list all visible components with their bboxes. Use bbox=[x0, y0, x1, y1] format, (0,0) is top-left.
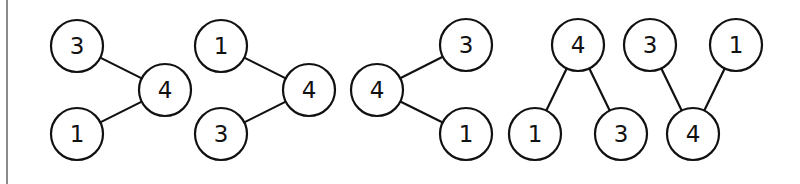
node-4: 4 bbox=[552, 19, 604, 71]
node-label: 1 bbox=[459, 121, 474, 147]
node-4: 4 bbox=[667, 108, 719, 160]
node-label: 4 bbox=[370, 77, 385, 103]
tree-diagrams: 341143431413314 bbox=[0, 0, 800, 184]
graph-1: 341 bbox=[51, 20, 191, 160]
node-1: 1 bbox=[710, 19, 762, 71]
node-4: 4 bbox=[283, 64, 335, 116]
edge-line bbox=[400, 102, 442, 123]
node-label: 1 bbox=[528, 121, 543, 147]
edge-line bbox=[100, 58, 141, 79]
edge-line bbox=[100, 102, 141, 123]
node-label: 4 bbox=[302, 77, 317, 103]
node-label: 1 bbox=[729, 32, 744, 58]
node-4: 4 bbox=[351, 64, 403, 116]
node-1: 1 bbox=[51, 108, 103, 160]
edge-line bbox=[589, 68, 609, 110]
node-3: 3 bbox=[595, 108, 647, 160]
node-label: 1 bbox=[214, 33, 229, 59]
edge-line bbox=[546, 68, 566, 110]
node-3: 3 bbox=[624, 19, 676, 71]
node-3: 3 bbox=[51, 20, 103, 72]
node-label: 3 bbox=[643, 32, 658, 58]
node-label: 3 bbox=[459, 32, 474, 58]
node-label: 4 bbox=[686, 121, 701, 147]
graph-3: 431 bbox=[351, 19, 492, 160]
node-label: 1 bbox=[70, 121, 85, 147]
edge-line bbox=[244, 102, 285, 123]
node-3: 3 bbox=[195, 108, 247, 160]
node-label: 3 bbox=[214, 121, 229, 147]
node-label: 4 bbox=[158, 77, 173, 103]
node-label: 3 bbox=[70, 33, 85, 59]
node-3: 3 bbox=[440, 19, 492, 71]
graph-2: 143 bbox=[195, 20, 335, 160]
node-4: 4 bbox=[139, 64, 191, 116]
node-1: 1 bbox=[195, 20, 247, 72]
edge-line bbox=[704, 68, 724, 110]
node-1: 1 bbox=[509, 108, 561, 160]
node-label: 4 bbox=[571, 32, 586, 58]
edge-line bbox=[244, 58, 285, 79]
edge-line bbox=[400, 57, 443, 79]
edge-line bbox=[661, 68, 681, 110]
diagram-canvas: 341143431413314 bbox=[0, 0, 800, 184]
node-1: 1 bbox=[440, 108, 492, 160]
node-label: 3 bbox=[614, 121, 629, 147]
